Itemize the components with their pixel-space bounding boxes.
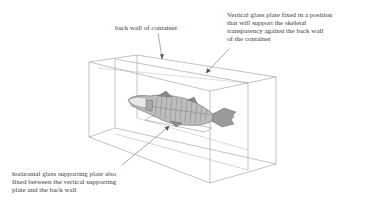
horizontal-plate-label-line: horizontal glass supporting plate also	[12, 170, 116, 178]
fish-head	[128, 97, 148, 108]
back-wall-label: back wall of container	[115, 24, 177, 32]
back-wall-arrowhead	[161, 55, 164, 60]
back-wall-label-line: back wall of container	[115, 24, 177, 32]
vertical-plate-top-line	[115, 59, 248, 83]
horizontal-plate-label: horizontal glass supporting plate also f…	[12, 170, 116, 194]
top-right-edge	[210, 77, 276, 91]
vertical-plate-top-line-2	[98, 68, 248, 83]
vertical-plate-label-line: transparency against the back wall	[227, 27, 332, 35]
horizontal-plate-label-line: fixed between the vertical supporting	[12, 178, 116, 186]
top-left-edge	[89, 55, 137, 62]
back-wall-leader-line	[158, 33, 162, 57]
bottom-left-edge	[89, 128, 115, 137]
vertical-plate-label-line: Vertical glass plate fixed in a position	[227, 11, 332, 19]
bottom-inner-line	[115, 134, 248, 170]
fish-gill	[146, 100, 153, 111]
bottom-back-edge	[115, 128, 276, 164]
horizontal-plate-arrowhead	[165, 126, 169, 131]
vertical-plate-label-line: of the container	[227, 35, 332, 43]
bottom-right-edge	[210, 164, 276, 183]
fish-skeletal-transparency	[128, 91, 236, 127]
vertical-plate-label: Vertical glass plate fixed in a position…	[227, 11, 332, 43]
fish-dorsal-fin	[158, 91, 172, 97]
horizontal-plate-label-line: plate and the back wall	[12, 186, 116, 194]
top-front-edge	[89, 62, 210, 91]
vertical-plate-label-line: that will support the skeletal	[227, 19, 332, 27]
